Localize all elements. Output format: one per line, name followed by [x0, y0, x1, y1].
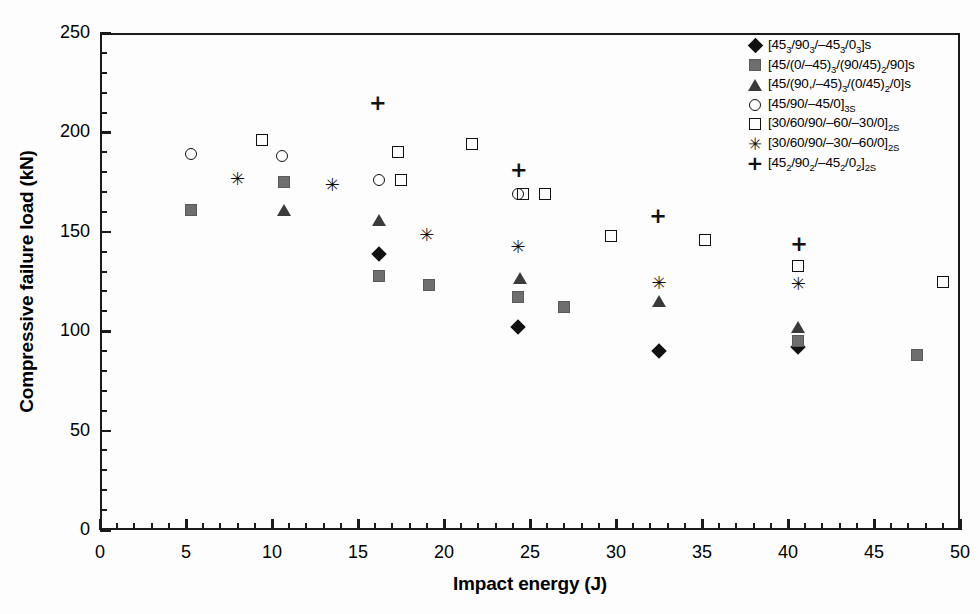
x-tick-minor: [426, 523, 428, 530]
x-tick-label: 25: [500, 542, 560, 563]
data-point: [423, 279, 435, 291]
legend-label: [45/90/–45/0]3S: [768, 96, 855, 114]
y-tick-label: 50: [42, 420, 90, 441]
data-point: [256, 134, 268, 146]
legend-marker-plus-icon: +: [742, 155, 768, 171]
x-tick-minor: [202, 523, 204, 530]
data-point: [373, 270, 385, 282]
y-tick-minor: [100, 310, 107, 312]
y-tick-major: [100, 32, 111, 35]
y-tick-label: 250: [42, 22, 90, 43]
x-tick-minor: [907, 523, 909, 530]
y-tick-minor: [100, 290, 107, 292]
legend-item[interactable]: [45/(90,/–45)3/(0/45)2/0]s: [742, 75, 957, 95]
x-tick-minor: [340, 523, 342, 530]
x-tick-label: 10: [242, 542, 302, 563]
x-tick-major: [99, 519, 102, 530]
legend-marker-filled-square-icon: [742, 57, 768, 73]
data-point: [392, 146, 404, 158]
x-tick-major: [357, 519, 360, 530]
data-point: [278, 176, 290, 188]
data-point: [605, 230, 617, 242]
x-tick-minor: [667, 523, 669, 530]
x-tick-minor: [116, 523, 118, 530]
legend-item[interactable]: [30/60/90/–60/–30/0]2S: [742, 114, 957, 134]
data-point: ✳: [230, 172, 246, 185]
x-tick-minor: [770, 523, 772, 530]
data-point: [558, 301, 570, 313]
legend-marker-filled-triangle-icon: [742, 77, 768, 93]
data-point: [513, 272, 527, 284]
x-tick-minor: [684, 523, 686, 530]
data-point: ✳: [324, 178, 340, 191]
legend-item[interactable]: [45/90/–45/0]3S: [742, 95, 957, 115]
x-tick-minor: [409, 523, 411, 530]
x-tick-label: 35: [672, 542, 732, 563]
legend-label: [453/903/–453/03]s: [768, 37, 871, 55]
data-point: [699, 234, 711, 246]
x-tick-major: [529, 519, 532, 530]
x-tick-minor: [856, 523, 858, 530]
data-point: [276, 150, 288, 162]
legend-label: [452/902/–452/02]2S: [768, 155, 876, 173]
y-tick-major: [100, 529, 111, 532]
figure-canvas: Compressive failure load (kN) Impact ene…: [0, 0, 980, 614]
data-point: [792, 260, 804, 272]
x-tick-minor: [477, 523, 479, 530]
y-tick-minor: [100, 191, 107, 193]
data-point: [539, 188, 551, 200]
legend-label: [45/(90,/–45)3/(0/45)2/0]s: [768, 76, 911, 94]
data-point: +: [790, 237, 806, 251]
x-tick-major: [185, 519, 188, 530]
legend-marker-open-square-icon: [742, 116, 768, 132]
x-tick-minor: [804, 523, 806, 530]
data-point: [185, 148, 197, 160]
data-point: [512, 291, 524, 303]
legend-label: [45/(0/–45)3/(90/45)2/90]s: [768, 57, 915, 75]
x-tick-label: 5: [156, 542, 216, 563]
data-point: [466, 138, 478, 150]
data-point: [277, 204, 291, 216]
x-tick-minor: [168, 523, 170, 530]
data-point: [652, 295, 666, 307]
x-tick-minor: [374, 523, 376, 530]
legend-item[interactable]: ✳[30/60/90/–30/–60/0]2S: [742, 134, 957, 154]
y-tick-minor: [100, 171, 107, 173]
data-point: +: [510, 163, 526, 177]
x-tick-label: 15: [328, 542, 388, 563]
data-point: [911, 349, 923, 361]
legend-item[interactable]: [453/903/–453/03]s: [742, 36, 957, 56]
x-tick-minor: [460, 523, 462, 530]
x-tick-major: [787, 519, 790, 530]
x-tick-minor: [133, 523, 135, 530]
y-tick-label: 150: [42, 221, 90, 242]
x-tick-label: 45: [844, 542, 904, 563]
data-point: [373, 174, 385, 186]
y-tick-minor: [100, 52, 107, 54]
x-tick-label: 40: [758, 542, 818, 563]
x-tick-minor: [598, 523, 600, 530]
data-point: [517, 188, 529, 200]
data-point: [791, 321, 805, 333]
legend-item[interactable]: +[452/902/–452/02]2S: [742, 154, 957, 174]
x-tick-minor: [563, 523, 565, 530]
y-tick-minor: [100, 151, 107, 153]
x-tick-minor: [305, 523, 307, 530]
data-point: ✳: [651, 275, 667, 288]
x-tick-minor: [495, 523, 497, 530]
y-tick-minor: [100, 410, 107, 412]
x-tick-label: 50: [930, 542, 980, 563]
x-tick-minor: [288, 523, 290, 530]
x-axis-label: Impact energy (J): [100, 573, 960, 595]
x-tick-minor: [839, 523, 841, 530]
y-tick-minor: [100, 370, 107, 372]
y-tick-major: [100, 430, 111, 433]
legend-item[interactable]: [45/(0/–45)3/(90/45)2/90]s: [742, 56, 957, 76]
x-tick-major: [701, 519, 704, 530]
data-point: [395, 174, 407, 186]
y-tick-label: 200: [42, 121, 90, 142]
data-point: [792, 335, 804, 347]
x-tick-minor: [925, 523, 927, 530]
x-tick-minor: [821, 523, 823, 530]
x-tick-major: [443, 519, 446, 530]
